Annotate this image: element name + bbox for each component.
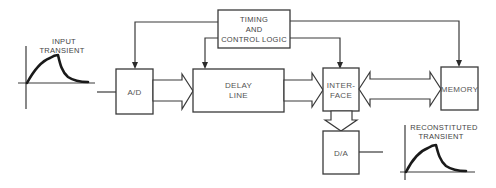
- output-transient: RECONSTITUTED TRANSIENT: [400, 123, 478, 180]
- input-curve: [27, 55, 88, 83]
- control-line-delay: [205, 38, 218, 64]
- output-curve: [406, 145, 466, 172]
- bus-ad-delay: [153, 74, 193, 109]
- da-label: D/A: [334, 149, 349, 158]
- timing-label-3: CONTROL LOGIC: [221, 35, 287, 44]
- control-lines: [132, 21, 462, 69]
- interface-label-2: FACE: [330, 91, 352, 100]
- arrow-memory-icon: [456, 60, 462, 67]
- ad-label: A/D: [127, 88, 141, 97]
- memory-block: MEMORY: [441, 67, 479, 110]
- output-label-2: TRANSIENT: [418, 132, 463, 141]
- interface-block: INTER- FACE: [323, 68, 359, 111]
- ad-converter-block: A/D: [116, 69, 153, 114]
- delay-label-1: DELAY: [225, 81, 253, 90]
- timing-label-2: AND: [246, 25, 263, 34]
- bus-interface-da: [325, 111, 357, 131]
- timing-control-block: TIMING AND CONTROL LOGIC: [218, 10, 290, 48]
- delay-label-2: LINE: [229, 91, 248, 100]
- da-converter-block: D/A: [323, 131, 359, 174]
- control-line-interface: [290, 38, 340, 64]
- input-transient: INPUT TRANSIENT: [18, 37, 95, 109]
- output-label-1: RECONSTITUTED: [410, 123, 478, 132]
- delay-line-block: DELAY LINE: [193, 69, 284, 112]
- memory-label: MEMORY: [441, 85, 479, 94]
- input-label-1: INPUT: [52, 37, 76, 46]
- bus-interface-memory: [359, 72, 441, 106]
- interface-label-1: INTER-: [327, 81, 355, 90]
- bus-delay-interface: [284, 73, 323, 107]
- control-line-memory: [290, 21, 459, 62]
- arrow-delay-icon: [202, 62, 208, 69]
- block-diagram: TIMING AND CONTROL LOGIC INPUT TRANSIENT…: [0, 0, 496, 188]
- arrow-ad-icon: [132, 62, 138, 69]
- input-label-2: TRANSIENT: [39, 46, 84, 55]
- timing-label-1: TIMING: [240, 15, 268, 24]
